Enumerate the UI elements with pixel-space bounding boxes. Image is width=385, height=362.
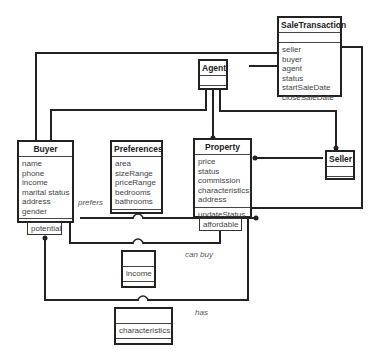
- attributes-section: characteristics: [116, 324, 171, 339]
- attribute: priceRange: [115, 178, 158, 188]
- class-name: SaleTransaction: [279, 18, 340, 33]
- attributes-section: area sizeRange priceRange bedrooms bathr…: [112, 157, 161, 210]
- operations-section: [327, 177, 353, 186]
- class-preferences[interactable]: Preferences area sizeRange priceRange be…: [110, 140, 163, 214]
- qualifier-affordable: affordable: [199, 218, 242, 231]
- attribute: marital status: [22, 188, 69, 198]
- attribute: seller: [282, 45, 337, 55]
- attribute: startSaleDate: [282, 83, 337, 93]
- class-name: Property: [195, 140, 250, 155]
- attribute: area: [115, 159, 158, 169]
- attributes-section: [200, 76, 226, 86]
- empty-section: [279, 33, 340, 43]
- association-label-has: has: [195, 308, 208, 317]
- attribute: buyer: [282, 55, 337, 65]
- class-buyer[interactable]: Buyer name phone income marital status a…: [17, 140, 74, 223]
- attribute: bathrooms: [115, 197, 158, 207]
- class-name: Seller: [327, 152, 353, 167]
- attribute: characteristics: [119, 326, 168, 336]
- attribute: bedrooms: [115, 188, 158, 198]
- attributes-section: price status commission characteristics …: [195, 155, 250, 208]
- attribute: address: [198, 195, 247, 205]
- attribute: characteristics: [198, 186, 247, 196]
- attribute: closeSaleDate: [282, 93, 337, 103]
- class-income[interactable]: income: [121, 250, 156, 288]
- attributes-section: seller buyer agent status startSaleDate …: [279, 43, 340, 104]
- class-name: Buyer: [19, 142, 72, 157]
- attribute: phone: [22, 169, 69, 179]
- operations-section: [123, 282, 154, 291]
- operations-section: [116, 339, 171, 348]
- attribute: status: [198, 167, 247, 177]
- attribute: sizeRange: [115, 169, 158, 179]
- class-property[interactable]: Property price status commission charact…: [193, 138, 252, 218]
- attribute: name: [22, 159, 69, 169]
- association-label-can-buy: can buy: [185, 250, 213, 259]
- attributes-section: income: [123, 267, 154, 282]
- attributes-section: [327, 167, 353, 177]
- attribute: income: [126, 269, 151, 279]
- qualifier-potential: potential: [27, 222, 62, 235]
- association-label-prefers: prefers: [78, 198, 103, 207]
- class-seller[interactable]: Seller: [325, 150, 355, 180]
- name-section: [123, 252, 154, 267]
- class-characteristics[interactable]: characteristics: [114, 307, 173, 345]
- operations-section: [112, 210, 161, 219]
- attribute: status: [282, 74, 337, 84]
- name-section: [116, 309, 171, 324]
- attribute: gender: [22, 207, 69, 217]
- class-name: Preferences: [112, 142, 161, 157]
- class-sale-transaction[interactable]: SaleTransaction seller buyer agent statu…: [277, 16, 342, 97]
- attribute: commission: [198, 176, 247, 186]
- attribute: price: [198, 157, 247, 167]
- attribute: income: [22, 178, 69, 188]
- class-agent[interactable]: Agent: [198, 59, 228, 90]
- operations-section: [200, 86, 226, 95]
- attribute: agent: [282, 64, 337, 74]
- attributes-section: name phone income marital status address…: [19, 157, 72, 219]
- attribute: address: [22, 197, 69, 207]
- class-name: Agent: [200, 61, 226, 76]
